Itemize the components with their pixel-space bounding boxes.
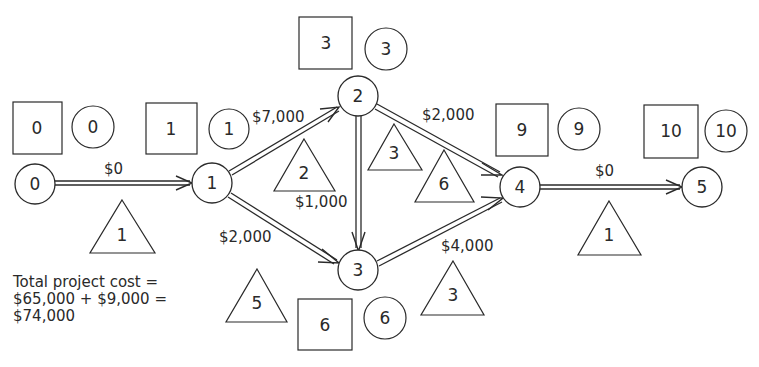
svg-text:1: 1 [604, 225, 615, 245]
svg-text:Total project cost =: Total project cost = [12, 273, 158, 291]
cost-label-4-5: $0 [595, 162, 614, 180]
node-1: 1 [192, 163, 232, 203]
svg-text:1: 1 [166, 119, 177, 139]
svg-text:4: 4 [515, 177, 526, 197]
duration-triangle-3-4: 3 [421, 261, 484, 315]
svg-text:5: 5 [252, 293, 263, 313]
node-0: 0 [15, 164, 55, 204]
cost-label-0-1: $0 [104, 160, 123, 178]
cost-label-1-2: $7,000 [252, 108, 305, 126]
network-diagram: 0 1 2 3 4 5 0 0 1 1 3 3 6 [0, 0, 759, 367]
event-time-node-2: 3 3 [299, 17, 407, 70]
svg-text:3: 3 [448, 285, 459, 305]
svg-text:0: 0 [88, 117, 99, 137]
svg-text:6: 6 [320, 315, 331, 335]
edge-4-5 [540, 180, 682, 194]
svg-text:0: 0 [32, 118, 43, 138]
svg-text:0: 0 [30, 174, 41, 194]
cost-label-2-3: $1,000 [295, 193, 348, 211]
edge-0-1 [55, 176, 192, 190]
node-3: 3 [338, 250, 378, 290]
duration-triangle-4-5: 1 [578, 201, 641, 255]
duration-triangle-1-3: 5 [226, 269, 287, 322]
cost-label-3-4: $4,000 [441, 237, 494, 255]
svg-text:3: 3 [321, 33, 332, 53]
svg-text:$65,000 + $9,000 =: $65,000 + $9,000 = [13, 290, 167, 308]
svg-text:9: 9 [517, 120, 528, 140]
svg-text:1: 1 [117, 225, 128, 245]
node-2: 2 [338, 76, 378, 116]
event-time-node-3: 6 6 [298, 297, 406, 350]
svg-text:3: 3 [381, 39, 392, 59]
event-time-node-5: 10 10 [644, 105, 747, 158]
svg-text:6: 6 [439, 174, 450, 194]
node-5: 5 [682, 167, 722, 207]
svg-text:5: 5 [697, 177, 708, 197]
svg-text:3: 3 [389, 143, 400, 163]
total-cost-note: Total project cost = $65,000 + $9,000 = … [12, 273, 167, 325]
svg-text:1: 1 [224, 119, 235, 139]
svg-text:10: 10 [660, 121, 682, 141]
event-time-node-0: 0 0 [13, 102, 114, 154]
svg-text:2: 2 [299, 163, 310, 183]
svg-text:$74,000: $74,000 [13, 307, 75, 325]
svg-text:3: 3 [353, 260, 364, 280]
svg-text:1: 1 [207, 173, 218, 193]
node-4: 4 [500, 167, 540, 207]
event-time-node-4: 9 9 [496, 104, 600, 156]
svg-text:6: 6 [380, 308, 391, 328]
svg-text:10: 10 [715, 121, 737, 141]
duration-triangle-2-4: 6 [415, 150, 474, 202]
duration-triangle-1-2: 2 [274, 139, 335, 191]
edge-3-4 [377, 197, 503, 266]
svg-text:2: 2 [353, 86, 364, 106]
edge-2-3 [352, 116, 365, 251]
cost-label-1-3: $2,000 [219, 228, 272, 246]
svg-text:9: 9 [574, 119, 585, 139]
cost-label-2-4: $2,000 [422, 106, 475, 124]
duration-triangle-0-1: 1 [90, 200, 155, 253]
event-time-node-1: 1 1 [146, 103, 249, 154]
